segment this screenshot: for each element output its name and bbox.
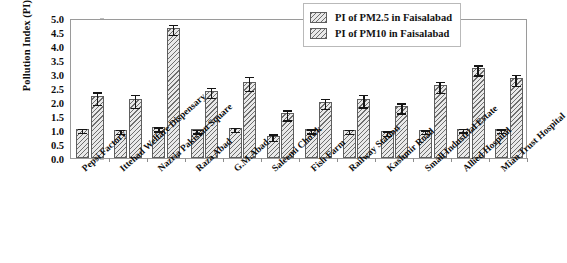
legend-swatch-pm25-icon — [310, 12, 327, 23]
x-tick-label: Mian Trust Hospital — [499, 111, 567, 174]
legend-label-pm25: PI of PM2.5 in Faisalabad — [335, 12, 452, 23]
legend-item[interactable]: PI of PM2.5 in Faisalabad — [310, 9, 452, 25]
legend-item[interactable]: PI of PM10 in Faisalabad — [310, 25, 452, 41]
x-tick-label: Small Industrial Estate — [423, 103, 500, 173]
x-tick-label: G.M.Abad — [232, 137, 271, 173]
x-tick-label: Fish Farm — [309, 138, 347, 174]
legend-label-pm10: PI of PM10 in Faisalabad — [335, 28, 449, 39]
x-tick-label: Nazria Pakistan Square — [156, 101, 234, 173]
x-tick-label: Raza Abad — [194, 136, 234, 173]
legend-swatch-pm10-icon — [310, 28, 327, 39]
chart-legend: PI of PM2.5 in Faisalabad PI of PM10 in … — [303, 3, 461, 47]
